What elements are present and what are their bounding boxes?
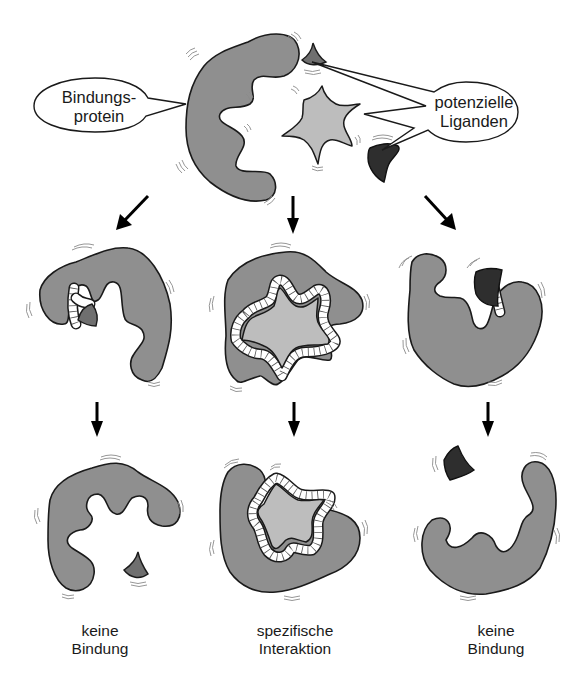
wedge-ligand-top (302, 43, 326, 75)
arrow-down-left-icon (124, 196, 148, 221)
outcome-label-right: keine Bindung (436, 622, 556, 658)
result-middle-row3 (210, 459, 368, 601)
outcome-label-left: keine Bindung (40, 622, 160, 658)
protein-callout-label: Bindungs- protein (44, 88, 154, 126)
outcome-middle-line2: Interaktion (230, 640, 360, 658)
ligands-callout-label: potenzielle Liganden (424, 93, 524, 131)
outcome-left-line1: keine (40, 622, 160, 640)
complex-left-row2 (26, 244, 174, 387)
outcome-right-line1: keine (436, 622, 556, 640)
protein-callout-line2: protein (44, 107, 154, 126)
ligands-callout-line2: Liganden (424, 112, 524, 131)
outcome-label-middle: spezifische Interaktion (230, 622, 360, 658)
protein-callout-line1: Bindungs- (44, 88, 154, 107)
outcome-middle-line1: spezifische (230, 622, 360, 640)
outcome-left-line2: Bindung (40, 640, 160, 658)
complex-middle-row2 (209, 243, 369, 392)
complex-right-row2 (399, 254, 545, 387)
arrows-row-2 (91, 402, 494, 437)
ligands-callout-line1: potenzielle (424, 93, 524, 112)
star-ligand-top (282, 86, 360, 171)
binding-protein-free (186, 34, 299, 201)
result-right-row3 (414, 446, 560, 601)
arrows-row-1 (116, 196, 456, 234)
arrow-down-right-icon (425, 196, 448, 221)
outcome-right-line2: Bindung (436, 640, 556, 658)
result-left-row3 (34, 455, 183, 599)
